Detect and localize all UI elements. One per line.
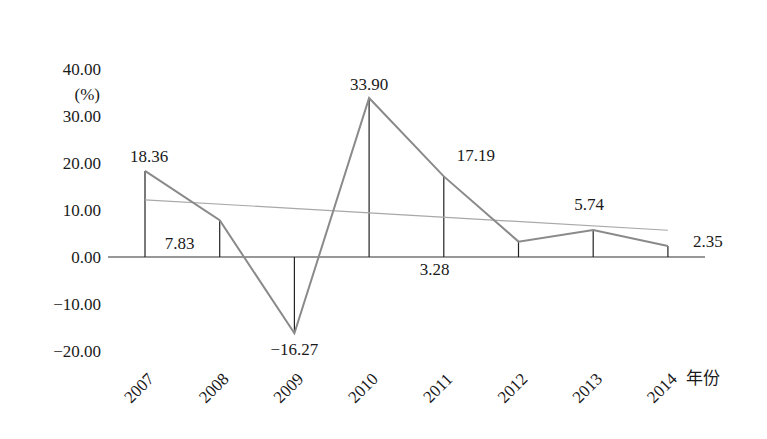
y-axis: (%)40.0030.0020.0010.000.00−10.00−20.00: [53, 60, 101, 360]
y-tick-label: −20.00: [53, 342, 101, 361]
line-chart: (%)40.0030.0020.0010.000.00−10.00−20.00 …: [0, 0, 767, 439]
x-tick-label: 2007: [120, 369, 158, 407]
x-tick-label: 2013: [569, 369, 606, 406]
data-series-line: [145, 98, 668, 333]
data-labels: 18.367.83−16.2733.9017.193.285.742.35: [130, 75, 723, 359]
data-label: 18.36: [130, 147, 168, 166]
data-label: 5.74: [574, 195, 604, 214]
y-tick-label: 30.00: [63, 107, 101, 126]
x-axis-title: 年份: [686, 368, 720, 388]
y-tick-label: 10.00: [63, 201, 101, 220]
y-tick-label: 20.00: [63, 154, 101, 173]
data-label: 2.35: [693, 232, 723, 251]
x-tick-label: 2008: [195, 369, 232, 406]
data-label: 17.19: [457, 146, 495, 165]
data-label: 33.90: [350, 75, 388, 94]
y-tick-label: −10.00: [53, 295, 101, 314]
data-label: −16.27: [270, 340, 318, 359]
y-tick-label: 0.00: [71, 248, 101, 267]
x-tick-label: 2012: [494, 369, 531, 406]
x-tick-label: 2009: [270, 369, 307, 406]
drop-lines: [145, 98, 668, 333]
y-tick-label: 40.00: [63, 60, 101, 79]
x-tick-label: 2010: [344, 369, 381, 406]
data-label: 7.83: [165, 234, 195, 253]
x-axis: 20072008200920102011201220132014年份: [120, 368, 720, 407]
x-tick-label: 2011: [419, 370, 456, 407]
y-axis-unit-label: (%): [75, 85, 100, 104]
data-label: 3.28: [420, 260, 450, 279]
x-tick-label: 2014: [643, 369, 681, 407]
